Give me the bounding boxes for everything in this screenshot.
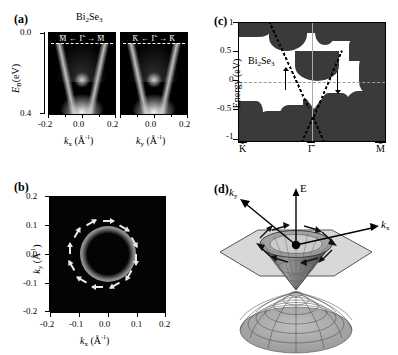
panel-d-axis-E-label: E (300, 182, 307, 194)
panel-a-ytick-0: 0.0 (20, 27, 31, 37)
panel-c-band-structure: (c) Energy (eV) 1 0.5 0 -0.5 (200, 0, 398, 170)
panel-b-ytick-0: 0.2 (26, 191, 37, 201)
panel-b-xtick-2: 0.0 (99, 319, 110, 329)
panel-a-xlabel-left: kx (Å-1) (64, 134, 93, 148)
panel-c-ytick-2: 0 (229, 74, 234, 84)
panel-a-xtick-l0: -0.2 (38, 119, 52, 129)
panel-d-axis-kx-label: kx (381, 218, 389, 232)
panel-d-dirac-cone-schematic: (d) (200, 172, 398, 355)
panel-c-xtick-M: M̄ (376, 143, 385, 154)
axis-E-arrowhead (293, 188, 300, 196)
gamma-vertical-line (312, 23, 313, 141)
panel-c-ytick-1: 0.5 (220, 45, 231, 55)
axis-kx-arrowhead (370, 223, 379, 231)
arpes-right-hs-label: K̄ ← Γ̄ → K̄ (120, 33, 188, 45)
panel-a-arpes: (a) Bi2Se3 EB(eV) 0.0 0.4 M̄ ← Γ̄ → M̄ K… (0, 0, 200, 160)
panel-a-xtick-r1: 0.2 (179, 119, 190, 129)
panel-c-xtick-Gamma: Γ̄ (308, 143, 314, 154)
panel-b-ylabel: ky (Å-1) (30, 229, 44, 289)
panel-c-xtick-K: K̄ (239, 143, 246, 154)
panel-b-xtick-4: 0.2 (159, 319, 170, 329)
panel-b-xtick-0: -0.2 (40, 319, 54, 329)
spin-up-arrow (285, 71, 286, 90)
panel-d-axis-ky-label: ky (229, 186, 237, 200)
panel-a-xtick-l2: 0.2 (107, 119, 118, 129)
panel-b-xlabel: kx (Å-1) (80, 334, 109, 348)
panel-a-ylabel: EB(eV) (10, 49, 23, 109)
panel-a-title: Bi2Se3 (76, 11, 102, 24)
fermi-surface-map (50, 196, 166, 312)
panel-a-xtick-r0: 0.0 (145, 119, 156, 129)
panel-a-xtick-l1: 0.0 (73, 119, 84, 129)
panel-a-ytick-1: 0.4 (20, 108, 31, 118)
panel-a-label: (a) (14, 12, 28, 27)
panel-b-xtick-3: 0.1 (131, 319, 142, 329)
panel-a-yaxis (44, 32, 45, 114)
panel-c-material-label: Bi2Se3 (248, 55, 274, 68)
panel-c-ytick-3: -0.5 (217, 103, 231, 113)
spin-down-arrow (337, 71, 338, 90)
panel-c-label: (c) (214, 14, 227, 29)
panel-a-xlabel-right: ky (Å-1) (136, 134, 165, 148)
arpes-map-kx: M̄ ← Γ̄ → M̄ (48, 32, 116, 114)
panel-b-fermi-surface: (b) 0.2 0.1 0.0 -0.1 -0.2 -0.2 -0.1 0.0 … (0, 172, 200, 355)
band-structure-plot (238, 22, 386, 142)
arpes-left-hs-label: M̄ ← Γ̄ → M̄ (48, 33, 116, 45)
panel-b-ytick-4: -0.2 (23, 306, 37, 316)
lower-cone-mesh (240, 292, 352, 354)
panel-b-xtick-1: -0.1 (69, 319, 83, 329)
arpes-map-ky: K̄ ← Γ̄ → K̄ (120, 32, 188, 114)
